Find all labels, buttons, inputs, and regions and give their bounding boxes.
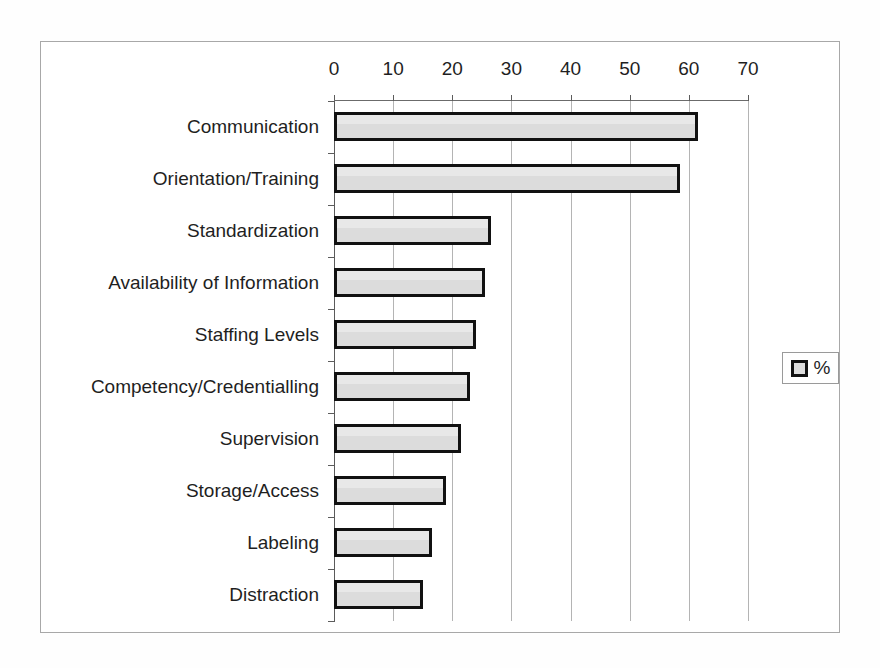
chart-frame: 010203040506070 CommunicationOrientation…: [40, 41, 840, 633]
bar[interactable]: [334, 320, 476, 349]
bar[interactable]: [334, 216, 491, 245]
x-tick-label: 0: [314, 58, 354, 80]
bar-row: [334, 465, 748, 517]
bar-row: [334, 101, 748, 153]
bar-highlight: [337, 479, 443, 488]
x-tick-label: 50: [610, 58, 650, 80]
category-label: Distraction: [41, 569, 319, 621]
category-label: Orientation/Training: [41, 153, 319, 205]
bar-row: [334, 361, 748, 413]
bar-highlight: [337, 271, 482, 280]
category-label: Storage/Access: [41, 465, 319, 517]
bar[interactable]: [334, 528, 432, 557]
chart-legend: %: [782, 352, 839, 384]
y-axis-tick: [328, 621, 335, 622]
bar[interactable]: [334, 580, 423, 609]
category-label: Staffing Levels: [41, 309, 319, 361]
bar-row: [334, 205, 748, 257]
bar-highlight: [337, 219, 488, 228]
gridline: [748, 101, 749, 621]
bar-row: [334, 517, 748, 569]
bar-highlight: [337, 323, 473, 332]
bar-highlight: [337, 375, 467, 384]
bar[interactable]: [334, 112, 698, 141]
bar-row: [334, 153, 748, 205]
legend-swatch-icon: [791, 360, 808, 377]
x-tick-label: 10: [373, 58, 413, 80]
bar-highlight: [337, 583, 420, 592]
bar-highlight: [337, 531, 429, 540]
bar-row: [334, 257, 748, 309]
category-axis-labels: CommunicationOrientation/TrainingStandar…: [41, 101, 329, 621]
category-label: Standardization: [41, 205, 319, 257]
bar-row: [334, 413, 748, 465]
bar-highlight: [337, 115, 695, 124]
category-label: Supervision: [41, 413, 319, 465]
category-label: Labeling: [41, 517, 319, 569]
bar[interactable]: [334, 372, 470, 401]
bar[interactable]: [334, 476, 446, 505]
x-tick-label: 40: [551, 58, 591, 80]
legend-label: %: [814, 358, 831, 378]
x-tick-label: 20: [432, 58, 472, 80]
x-tick-label: 30: [491, 58, 531, 80]
plot-area: [334, 101, 748, 621]
x-tick-label: 70: [728, 58, 768, 80]
bar-highlight: [337, 427, 458, 436]
bar-row: [334, 309, 748, 361]
bar-highlight: [337, 167, 677, 176]
bar[interactable]: [334, 268, 485, 297]
category-label: Availability of Information: [41, 257, 319, 309]
bar[interactable]: [334, 164, 680, 193]
x-axis-tick-labels: 010203040506070: [41, 42, 841, 82]
category-label: Communication: [41, 101, 319, 153]
bar-row: [334, 569, 748, 621]
bar-chart-figure: 010203040506070 CommunicationOrientation…: [0, 0, 880, 668]
bar[interactable]: [334, 424, 461, 453]
x-tick-label: 60: [669, 58, 709, 80]
category-label: Competency/Credentialling: [41, 361, 319, 413]
